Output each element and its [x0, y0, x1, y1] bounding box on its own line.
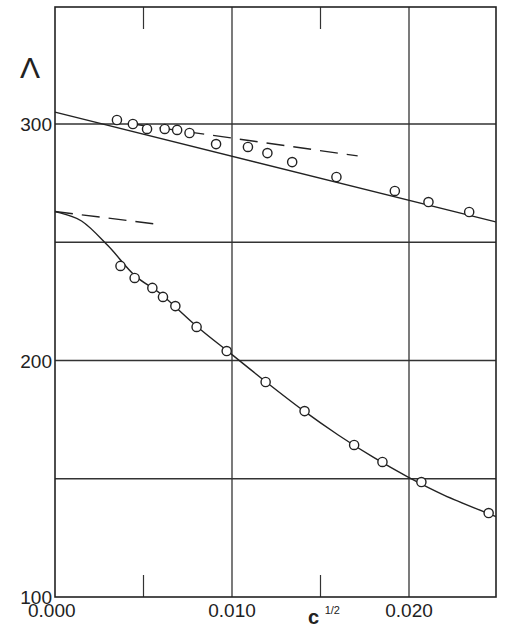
data-point-marker — [243, 142, 252, 151]
data-point-marker — [484, 508, 493, 517]
x-axis-tick-labels: 0.0000.0100.020 — [28, 600, 433, 621]
x-axis-label-base: c — [308, 606, 319, 628]
data-point-marker — [211, 140, 220, 149]
data-point-marker — [160, 124, 169, 133]
plot-border — [55, 7, 496, 597]
data-point-marker — [112, 115, 121, 124]
x-tick-label: 0.000 — [28, 600, 76, 621]
x-tick-label: 0.010 — [208, 600, 256, 621]
data-point-marker — [288, 157, 297, 166]
series-lines — [55, 112, 496, 516]
data-point-marker — [148, 283, 157, 292]
lower-limiting-slope — [55, 212, 156, 225]
data-point-marker — [185, 128, 194, 137]
data-point-marker — [424, 197, 433, 206]
data-point-marker — [378, 457, 387, 466]
data-point-marker — [116, 261, 125, 270]
data-point-marker — [417, 477, 426, 486]
data-point-marker — [171, 302, 180, 311]
conductance-chart: 100200300 0.0000.0100.020 Λ c 1/2 — [0, 0, 506, 629]
plot-frame — [55, 7, 496, 597]
data-point-marker — [158, 292, 167, 301]
data-point-marker — [263, 148, 272, 157]
data-point-marker — [465, 207, 474, 216]
lower-fit — [55, 212, 496, 517]
data-point-marker — [142, 124, 151, 133]
data-point-marker — [300, 407, 309, 416]
y-tick-label: 200 — [20, 351, 52, 372]
data-point-marker — [128, 119, 137, 128]
data-markers — [112, 115, 493, 517]
data-point-marker — [130, 273, 139, 282]
data-point-marker — [261, 377, 270, 386]
gridlines — [55, 7, 496, 597]
x-axis-label-superscript: 1/2 — [325, 604, 340, 616]
data-point-marker — [390, 186, 399, 195]
data-point-marker — [192, 322, 201, 331]
data-point-marker — [350, 440, 359, 449]
y-axis-label: Λ — [20, 51, 40, 84]
y-axis-tick-labels: 100200300 — [20, 114, 52, 608]
x-tick-label: 0.020 — [385, 600, 433, 621]
data-point-marker — [222, 346, 231, 355]
x-axis-label: c 1/2 — [308, 604, 340, 628]
y-tick-label: 300 — [20, 114, 52, 135]
data-point-marker — [332, 172, 341, 181]
data-point-marker — [173, 125, 182, 134]
chart-svg: 100200300 0.0000.0100.020 Λ c 1/2 — [0, 0, 506, 629]
